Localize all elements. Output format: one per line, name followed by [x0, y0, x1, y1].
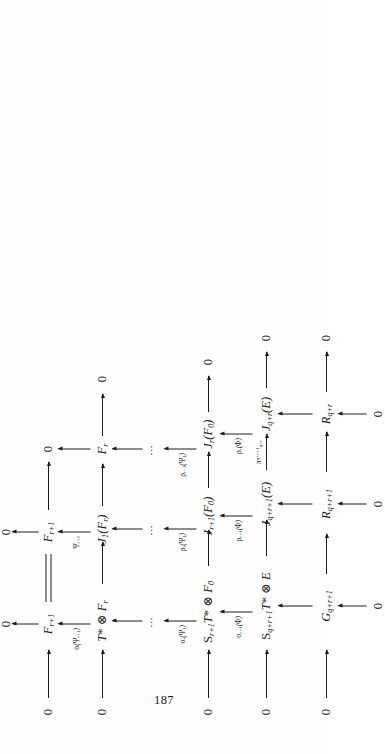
arrow-c4-r5-to-r4 — [278, 414, 312, 415]
node-S-q-r-1-T-star-tensor-E: Sq+r+1T* ⊗ E — [260, 572, 273, 640]
arrow-r3-c4-to-c5 — [208, 376, 209, 412]
arrow-c3-r5-to-r4 — [278, 504, 312, 505]
node-zero-top-c2: 0 — [0, 621, 12, 627]
arrow-c3-bottom-zero-to-r5 — [338, 504, 366, 505]
label-rho-r-plus-1-phi: ρr+1(Φ) — [234, 520, 241, 541]
vdots-c4: ⋯ — [146, 443, 159, 456]
node-G-q-r-1: Gq+r+1 — [320, 590, 333, 622]
label-sigma-r-plus-1-phi: σr+1(Φ) — [234, 616, 241, 638]
arrow-r5-c2-to-c3 — [326, 534, 327, 574]
arrow-c3-r3-to-r2 — [164, 529, 196, 530]
node-J-r-plus-1-F-0: Jr+1(F0) — [202, 497, 215, 536]
node-zero-r1-c1: 0 — [42, 709, 55, 715]
label-psi-r-plus-1: Ψr+1 — [72, 536, 79, 549]
arrow-c2-r4-to-r3 — [220, 612, 252, 613]
label-sigma-r-psi-1: σr(Ψ1) — [178, 625, 185, 644]
node-zero-r3-c1: 0 — [202, 709, 215, 715]
arrow-r4-c4-to-c5 — [266, 352, 267, 388]
node-F-r-plus-1-left: Fr+1 — [42, 614, 55, 635]
arrow-c3-r2-upper-seg — [112, 529, 142, 530]
node-zero-r2-c5: 0 — [96, 376, 109, 382]
node-zero-top-c3: 0 — [0, 529, 12, 535]
arrow-c2-r1-to-zero — [12, 624, 38, 625]
node-zero-r5-c5: 0 — [320, 335, 333, 341]
label-rho-r-psi-1: ρr(Ψ1) — [178, 533, 185, 551]
node-zero-r2-c1: 0 — [96, 709, 109, 715]
equality-r1-c2-c3 — [45, 554, 51, 602]
node-J1-F-r: J1(Fr) — [96, 514, 109, 543]
arrow-r1-c3-to-c4 — [48, 462, 49, 510]
arrow-c4-r2-upper-seg — [112, 449, 142, 450]
node-zero-r1-c4: 0 — [42, 446, 55, 452]
node-zero-r4-c5: 0 — [260, 335, 273, 341]
arrow-r5-c1-to-c2 — [326, 650, 327, 698]
arrow-c3-r2-to-r1 — [58, 532, 90, 533]
arrow-c3-r1-to-zero — [12, 532, 38, 533]
arrow-c3-r4-to-r3 — [220, 516, 252, 517]
label-pi-q-r-1-to-q-r: πq+r+1q+r — [255, 440, 262, 464]
arrow-r1-c1-to-c2 — [48, 650, 49, 698]
arrow-c2-r2-to-r1 — [58, 624, 90, 625]
arrow-r4-c3-to-c4 — [266, 434, 267, 470]
arrow-c2-r5-to-r4 — [278, 606, 312, 607]
node-zero-r3-c5: 0 — [202, 359, 215, 365]
vdots-c3: ⋯ — [146, 523, 159, 536]
node-J-q-r-1-E: Jq+r+1(E) — [260, 482, 273, 526]
node-zero-bottom-c3: 0 — [372, 501, 385, 507]
node-zero-bottom-c4: 0 — [372, 411, 385, 417]
node-J-r-F-0: Jr(F0) — [202, 419, 215, 448]
arrow-r5-c4-to-c5 — [326, 352, 327, 392]
arrow-r4-c1-to-c2 — [266, 650, 267, 698]
arrow-c4-r4-to-r3 — [220, 434, 252, 435]
label-rho-r-phi: ρr(Φ) — [234, 438, 241, 454]
node-zero-bottom-c2: 0 — [372, 603, 385, 609]
vdots-c2: ⋯ — [146, 615, 159, 628]
node-zero-r4-c1: 0 — [260, 709, 273, 715]
node-T-star-tensor-F-r: T* ⊗ Fr — [96, 600, 109, 641]
arrow-c2-bottom-zero-to-r5 — [338, 606, 366, 607]
arrow-r2-c1-to-c2 — [102, 650, 103, 698]
arrow-r3-c3-to-c4 — [208, 452, 209, 488]
node-R-q-r-1: Rq+r+1 — [320, 489, 333, 519]
arrow-c4-r3-to-r2 — [164, 449, 196, 450]
node-S-r-plus-1-T-star-tensor-F-0: Sr+1T* ⊗ F0 — [202, 581, 215, 643]
node-F-r-plus-1-right: Fr+1 — [42, 522, 55, 543]
arrow-c4-r2-to-r1-right — [58, 449, 90, 450]
node-R-q-r: Rq+r — [320, 404, 333, 425]
node-J-q-r-E: Jq+r(E) — [260, 397, 273, 432]
node-zero-r5-c1: 0 — [320, 709, 333, 715]
arrow-c2-r2-upper-seg — [112, 621, 142, 622]
arrow-r3-c1-to-c2 — [208, 650, 209, 698]
arrow-r5-c3-to-c4 — [326, 432, 327, 472]
page-number: 187 — [154, 693, 174, 708]
label-sigma-psi-r-plus-1: σ(Ψr+1) — [72, 628, 79, 650]
arrow-c4-bottom-zero-to-r5 — [338, 414, 366, 415]
arrow-r2-c4-to-c5 — [102, 394, 103, 436]
label-rho-r-minus-1-psi-1: ρr−1(Ψ1) — [178, 453, 185, 477]
arrow-r2-c2-to-c3 — [102, 542, 103, 584]
node-F-r: Fr — [96, 444, 109, 455]
arrow-c2-r3-to-r2 — [164, 621, 196, 622]
arrow-r2-c3-to-c4 — [102, 464, 103, 506]
